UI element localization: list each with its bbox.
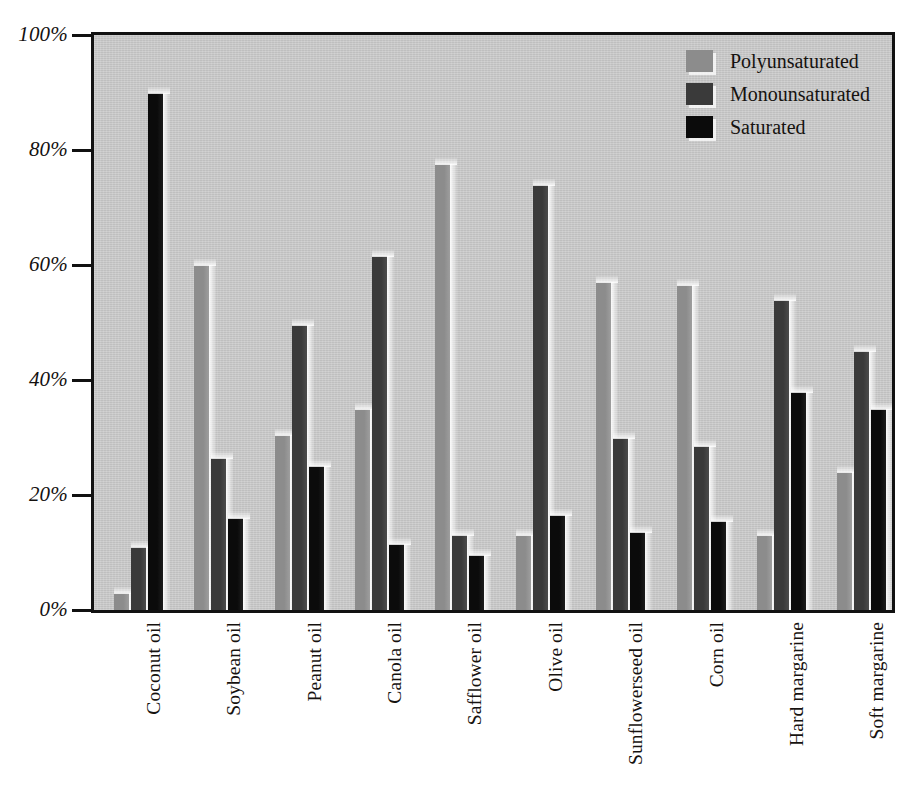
bar <box>550 515 565 610</box>
x-axis-label: Corn oil <box>706 622 728 687</box>
bar <box>469 555 484 610</box>
bar-top-highlight <box>228 512 250 519</box>
bar <box>228 518 243 610</box>
bar-body <box>596 282 611 610</box>
bar-body <box>435 164 450 610</box>
x-axis-labels: Coconut oilSoybean oilPeanut oilCanola o… <box>0 616 914 788</box>
bar-top-highlight <box>469 549 491 556</box>
bar-top-highlight <box>677 279 699 286</box>
bar <box>596 282 611 610</box>
bar-top-highlight <box>596 276 618 283</box>
y-axis-tick-label: 80% <box>29 137 68 162</box>
bar <box>148 93 163 611</box>
bar-highlight <box>163 93 170 611</box>
bar-highlight <box>404 544 411 610</box>
bar-highlight <box>726 521 733 610</box>
legend-item[interactable]: Monounsaturated <box>686 79 886 109</box>
bar <box>194 265 209 610</box>
bar-highlight <box>886 409 893 610</box>
legend-label: Polyunsaturated <box>730 50 859 73</box>
bar-body <box>533 185 548 611</box>
bar-group <box>355 35 404 610</box>
bar-body <box>194 265 209 610</box>
bar <box>114 593 129 610</box>
bar <box>694 446 709 610</box>
bar-body <box>516 535 531 610</box>
bar-group <box>114 35 163 610</box>
bar-highlight <box>806 392 813 611</box>
bar-top-highlight <box>694 440 716 447</box>
bar <box>774 300 789 611</box>
bar-body <box>131 547 146 610</box>
y-axis-tick-mark <box>72 379 91 382</box>
bar-body <box>114 593 129 610</box>
y-axis-tick-label: 20% <box>29 482 68 507</box>
bar-top-highlight <box>711 515 733 522</box>
bar-top-highlight <box>550 509 572 516</box>
bar-top-highlight <box>435 158 457 165</box>
bar <box>711 521 726 610</box>
bar <box>452 535 467 610</box>
bar-highlight <box>324 466 331 610</box>
bar-top-highlight <box>194 259 216 266</box>
y-axis-tick-mark <box>72 34 91 37</box>
bar-body <box>452 535 467 610</box>
x-axis-label: Hard margarine <box>786 622 808 746</box>
legend: PolyunsaturatedMonounsaturatedSaturated <box>686 46 886 145</box>
x-axis-label: Soybean oil <box>223 622 245 716</box>
bar-chart-figure: 0%20%40%60%80%100% PolyunsaturatedMonoun… <box>0 0 914 788</box>
bar-top-highlight <box>452 529 474 536</box>
bar <box>837 472 852 610</box>
y-axis-tick-mark <box>72 149 91 152</box>
bar-highlight <box>645 532 652 610</box>
bar <box>309 466 324 610</box>
bar <box>435 164 450 610</box>
bar <box>630 532 645 610</box>
y-axis-tick-mark <box>72 609 91 612</box>
legend-item[interactable]: Saturated <box>686 112 886 142</box>
x-axis-label: Coconut oil <box>143 622 165 715</box>
bar <box>854 351 869 610</box>
bar <box>791 392 806 611</box>
bar-body <box>711 521 726 610</box>
bar-group <box>516 35 565 610</box>
bar-body <box>211 458 226 610</box>
legend-label: Saturated <box>730 116 806 139</box>
bar <box>533 185 548 611</box>
y-axis-tick-label: 100% <box>18 22 68 47</box>
bar-body <box>148 93 163 611</box>
bar-body <box>677 285 692 610</box>
bar-body <box>372 256 387 610</box>
bar-top-highlight <box>389 538 411 545</box>
bar-body <box>757 535 772 610</box>
bar <box>292 325 307 610</box>
bar <box>275 435 290 610</box>
bar-top-highlight <box>372 250 394 257</box>
legend-item[interactable]: Polyunsaturated <box>686 46 886 76</box>
bar-body <box>292 325 307 610</box>
bar-group <box>435 35 484 610</box>
bar-top-highlight <box>774 294 796 301</box>
bar <box>871 409 886 610</box>
bar-body <box>309 466 324 610</box>
bar-body <box>469 555 484 610</box>
x-axis-label: Safflower oil <box>464 622 486 725</box>
bar <box>613 438 628 611</box>
bar-body <box>389 544 404 610</box>
legend-label: Monounsaturated <box>730 83 870 106</box>
x-axis-label: Soft margarine <box>866 622 888 739</box>
x-axis-label: Sunflowerseed oil <box>625 622 647 765</box>
bar-top-highlight <box>533 179 555 186</box>
bar-body <box>871 409 886 610</box>
bar-body <box>630 532 645 610</box>
bar-body <box>774 300 789 611</box>
bar <box>516 535 531 610</box>
bar-highlight <box>243 518 250 610</box>
bar <box>355 409 370 610</box>
legend-swatch <box>686 116 713 138</box>
bar-top-highlight <box>211 452 233 459</box>
bar <box>677 285 692 610</box>
bar-body <box>228 518 243 610</box>
bar-body <box>550 515 565 610</box>
bar-body <box>854 351 869 610</box>
